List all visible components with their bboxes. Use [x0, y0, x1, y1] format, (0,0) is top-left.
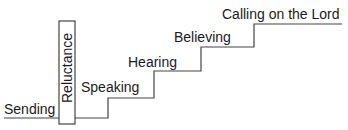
- staircase-diagram: Sending Speaking Hearing Believing Calli…: [0, 0, 348, 130]
- step-label-calling-on-the-lord: Calling on the Lord: [222, 6, 340, 22]
- step-label-believing: Believing: [174, 29, 231, 45]
- step-label-speaking: Speaking: [81, 79, 139, 95]
- barrier-label-reluctance: Reluctance: [59, 33, 75, 103]
- step-label-sending: Sending: [4, 101, 55, 117]
- step-label-hearing: Hearing: [128, 54, 177, 70]
